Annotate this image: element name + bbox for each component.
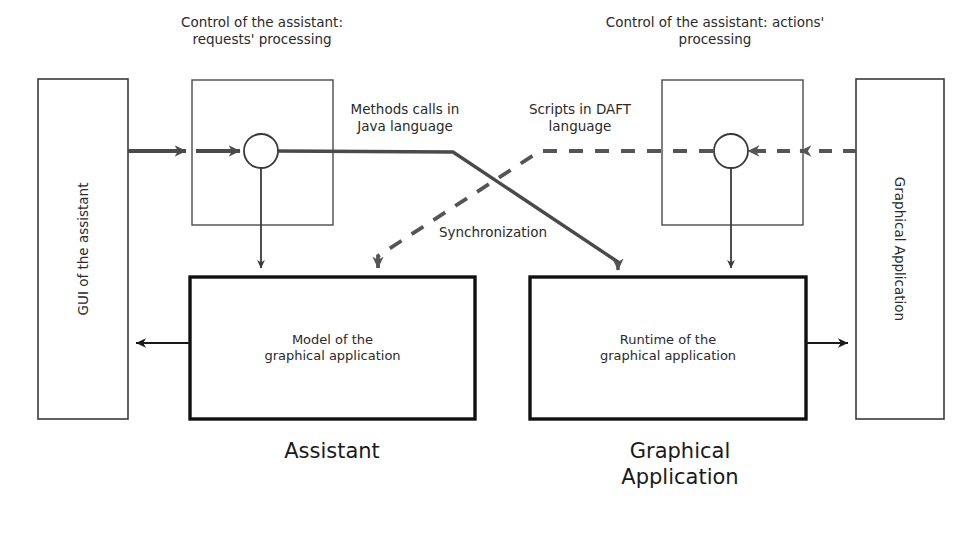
runtime-box-label: Runtime of the graphical application <box>535 332 801 365</box>
diagram-canvas: Control of the assistant: requests' proc… <box>0 0 975 536</box>
scripts-daft-label: Scripts in DAFT language <box>505 101 655 135</box>
model-box-label: Model of the graphical application <box>195 332 470 365</box>
control-requests-title: Control of the assistant: requests' proc… <box>172 14 352 48</box>
right-junction-circle <box>714 134 748 168</box>
graphical-application-caption: Graphical Application <box>580 438 780 491</box>
diagram-graphics <box>0 0 975 536</box>
methods-calls-edge-3 <box>277 151 618 270</box>
control-actions-title: Control of the assistant: actions' proce… <box>585 14 845 48</box>
gui-box-label: GUI of the assistant <box>75 183 91 316</box>
graphical-application-box-label: Graphical Application <box>892 177 908 321</box>
assistant-caption: Assistant <box>232 438 432 464</box>
left-junction-circle <box>244 134 278 168</box>
synchronization-label: Synchronization <box>398 224 588 241</box>
synchronization-edge <box>378 151 713 268</box>
methods-calls-label: Methods calls in Java language <box>330 101 480 135</box>
